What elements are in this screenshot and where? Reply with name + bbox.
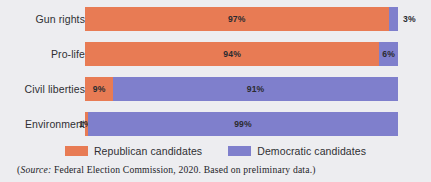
- bar-value-label: 97%: [228, 14, 246, 24]
- legend-item-rep: Republican candidates: [65, 145, 202, 157]
- bar-value-label: 6%: [382, 49, 395, 59]
- source-note: (Source: Federal Election Commission, 20…: [17, 164, 316, 175]
- category-label-gun-rights: Gun rights: [36, 7, 85, 31]
- source-text: Federal Election Commission, 2020. Based…: [51, 164, 315, 175]
- source-label: Source:: [20, 164, 51, 175]
- category-label-pro-life: Pro-life: [51, 42, 85, 66]
- bar-track: 1%99%: [85, 112, 398, 136]
- bar-segment-rep: 9%: [85, 77, 113, 101]
- bar-value-label: 9%: [93, 84, 106, 94]
- bar-value-label: 94%: [223, 49, 241, 59]
- bar-track: 97%3%: [85, 7, 398, 31]
- bar-segment-rep: 94%: [85, 42, 379, 66]
- bar-value-label: 99%: [234, 119, 252, 129]
- bar-segment-dem: 6%: [379, 42, 398, 66]
- bar-segment-dem: 91%: [113, 77, 398, 101]
- bar-row: Pro-life94%6%: [0, 42, 431, 66]
- bar-row: Civil liberties9%91%: [0, 77, 431, 101]
- bar-value-label: 91%: [247, 84, 265, 94]
- bar-segment-dem: 99%: [88, 112, 398, 136]
- legend-swatch-dem: [228, 146, 251, 156]
- bar-segment-dem: 3%: [389, 7, 398, 31]
- stacked-bar-chart: Gun rights97%3%Pro-life94%6%Civil libert…: [0, 0, 431, 182]
- category-label-environment: Environment: [25, 112, 85, 136]
- legend-label: Democratic candidates: [257, 145, 366, 157]
- category-label-civil-liberties: Civil liberties: [25, 77, 85, 101]
- bar-segment-rep: 97%: [85, 7, 389, 31]
- chart-plot-area: Gun rights97%3%Pro-life94%6%Civil libert…: [0, 7, 431, 147]
- bar-row: Gun rights97%3%: [0, 7, 431, 31]
- legend-label: Republican candidates: [94, 145, 202, 157]
- bar-row: Environment1%99%: [0, 112, 431, 136]
- bar-value-label: 3%: [403, 14, 416, 24]
- legend-swatch-rep: [65, 146, 88, 156]
- chart-legend: Republican candidatesDemocratic candidat…: [0, 145, 431, 157]
- bar-track: 9%91%: [85, 77, 398, 101]
- legend-item-dem: Democratic candidates: [228, 145, 366, 157]
- bar-track: 94%6%: [85, 42, 398, 66]
